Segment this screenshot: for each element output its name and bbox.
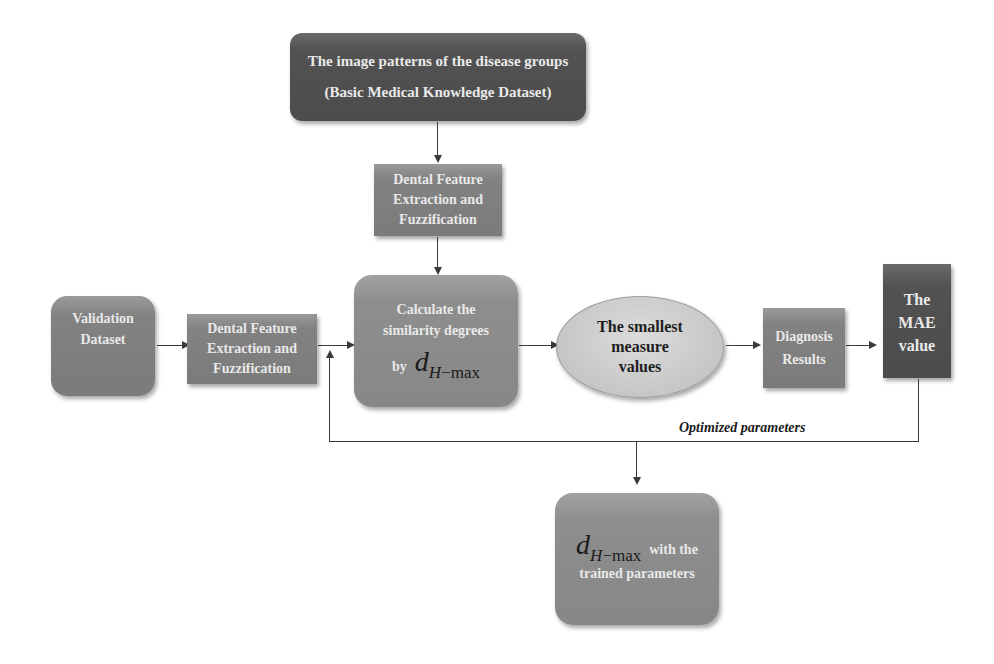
similarity-formula: by dH−max <box>392 351 480 377</box>
node-validation-dataset: Validation Dataset <box>51 296 155 396</box>
node-label-line2: measure <box>611 337 668 357</box>
arrowhead-up-icon <box>326 350 334 358</box>
node-label-line2: (Basic Medical Knowledge Dataset) <box>324 77 551 108</box>
arrowhead-down-icon <box>434 267 442 275</box>
connector-validation-to-feature <box>157 345 183 346</box>
node-label-line2: similarity degrees <box>383 320 489 341</box>
node-label-line1: The smallest <box>597 317 683 337</box>
node-label-line1: Diagnosis <box>775 325 833 348</box>
node-dental-feature-extraction-top: Dental Feature Extraction and Fuzzificat… <box>374 164 502 236</box>
node-label-line2: Extraction and <box>207 339 297 359</box>
arrowhead-down-icon <box>633 477 641 485</box>
node-label-line3: values <box>619 357 662 377</box>
formula-sub-max: −max <box>441 363 480 382</box>
node-label-by: by <box>392 356 407 377</box>
arrowhead-down-icon <box>434 155 442 163</box>
edge-label-optimized-parameters: Optimized parameters <box>679 420 805 436</box>
node-dental-feature-extraction-left: Dental Feature Extraction and Fuzzificat… <box>187 314 317 384</box>
node-label-line1-rest: with the <box>649 538 698 562</box>
node-diagnosis-results: Diagnosis Results <box>763 308 845 388</box>
node-basic-medical-knowledge-dataset: The image patterns of the disease groups… <box>290 33 586 121</box>
node-trained-parameters: dH−max with the trained parameters <box>555 493 719 625</box>
connector-feedback-to-trained <box>636 442 637 478</box>
arrowhead-right-icon <box>869 341 877 349</box>
connector-top-to-feature <box>437 122 438 156</box>
formula-sub-max: −max <box>602 546 641 565</box>
node-label-line2: Extraction and <box>393 190 483 210</box>
connector-smallest-to-diagnosis <box>726 345 754 346</box>
node-label-line1: The <box>904 288 931 311</box>
node-label-line3: Fuzzification <box>213 359 291 379</box>
connector-diagnosis-to-mae <box>846 345 870 346</box>
connector-feedback-down <box>918 379 919 441</box>
node-label-line2: Results <box>782 348 826 371</box>
node-mae-value: The MAE value <box>883 264 951 378</box>
node-label-line1: Dental Feature <box>207 319 297 339</box>
connector-feature-to-similarity <box>437 237 438 268</box>
trained-formula-line: dH−max with the <box>576 533 698 562</box>
formula-d: d <box>415 346 429 377</box>
node-smallest-measure-values: The smallest measure values <box>556 296 724 398</box>
arrowhead-right-icon <box>753 341 761 349</box>
node-label-line1: Dental Feature <box>393 170 483 190</box>
formula-sub-h: H <box>429 363 441 382</box>
node-label-line2: trained parameters <box>579 562 694 586</box>
node-label-line1: Validation <box>72 308 134 329</box>
connector-similarity-to-smallest <box>519 345 552 346</box>
connector-feature-left-to-similarity <box>318 345 348 346</box>
connector-feedback-horizontal <box>329 441 919 442</box>
connector-feedback-up <box>329 357 330 442</box>
node-label-line2: MAE <box>898 311 935 334</box>
formula-sub-h: H <box>590 546 602 565</box>
node-label-line3: value <box>899 334 935 357</box>
node-calculate-similarity: Calculate the similarity degrees by dH−m… <box>354 275 518 407</box>
d-h-max-formula: dH−max <box>415 351 480 377</box>
node-label-line3: Fuzzification <box>399 210 477 230</box>
node-label-line2: Dataset <box>80 329 125 350</box>
formula-d: d <box>576 529 590 560</box>
d-h-max-formula: dH−max <box>576 533 641 562</box>
node-label-line1: Calculate the <box>397 299 476 320</box>
node-label-line1: The image patterns of the disease groups <box>308 46 569 77</box>
